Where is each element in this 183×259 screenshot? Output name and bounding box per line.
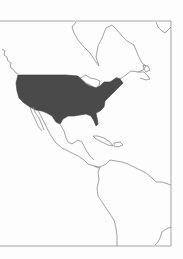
greenland-outline (156, 22, 171, 33)
central-america-outline (94, 160, 171, 185)
alaska-bc-coast (2, 49, 18, 74)
hispaniola-outline (114, 142, 123, 147)
mexico-pacific-coast (38, 110, 100, 167)
labrador-outline (138, 72, 150, 80)
map-svg (0, 0, 183, 259)
mexico-gulf-coast (60, 124, 94, 160)
map-container (0, 0, 183, 259)
cuba-outline (93, 136, 113, 146)
canada-hudson-outline (72, 22, 146, 79)
united-states-region (16, 75, 123, 126)
map-page: Map of North and Central America with th… (0, 0, 183, 259)
south-america-east-coast (155, 227, 171, 245)
newfoundland-outline (143, 65, 150, 72)
south-america-west-coast (97, 167, 117, 246)
map-frame-border (0, 21, 171, 246)
